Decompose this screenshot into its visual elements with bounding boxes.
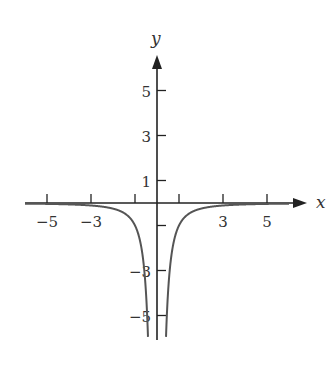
y-tick-label: 5: [141, 83, 151, 101]
y-tick-label: −3: [129, 263, 151, 281]
x-axis-label: x: [316, 192, 326, 212]
y-axis-label: y: [150, 28, 161, 48]
y-tick-label: 3: [141, 128, 151, 146]
x-tick-label: 5: [262, 213, 272, 231]
y-axis-arrow-icon: [152, 55, 162, 69]
x-tick-label: −5: [36, 213, 58, 231]
x-tick-label: −3: [80, 213, 102, 231]
y-tick-label: 1: [141, 173, 151, 191]
axes: x y: [25, 28, 326, 340]
function-plot: x y −5−335531−3−5: [0, 0, 336, 365]
x-tick-label: 3: [218, 213, 228, 231]
x-axis-arrow-icon: [293, 198, 307, 208]
